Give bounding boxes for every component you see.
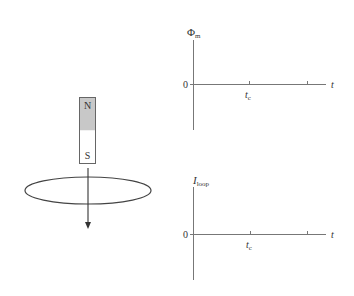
current-y-label: Iloop <box>192 174 210 188</box>
flux-x-label: t <box>331 79 334 90</box>
bar-magnet: N S <box>80 98 96 164</box>
flux-graph: 0 t Φm tc <box>183 26 334 130</box>
current-tc-label: tc <box>246 239 252 252</box>
flux-y-label: Φm <box>187 26 201 40</box>
current-graph: 0 t Iloop tc <box>183 174 334 280</box>
current-x-label: t <box>331 229 334 240</box>
flux-tc-label: tc <box>245 89 251 102</box>
magnet-south-label: S <box>85 150 91 161</box>
current-origin-label: 0 <box>183 229 188 240</box>
magnet-north-label: N <box>84 100 91 111</box>
flux-origin-label: 0 <box>183 79 188 90</box>
diagram-canvas: N S 0 t Φm tc 0 t Iloop tc <box>0 0 354 296</box>
